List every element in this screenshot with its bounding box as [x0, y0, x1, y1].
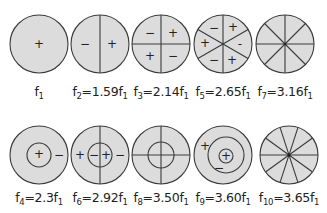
plus-sign: + [34, 37, 44, 51]
plus-sign: + [107, 37, 117, 51]
mode-f3-disc: − + + − [132, 15, 190, 73]
mode-f1-disc: + [10, 15, 68, 73]
minus-sign: − [209, 21, 219, 35]
minus-sign: − [115, 148, 125, 162]
minus-sign: − [168, 49, 178, 63]
plus-sign: + [200, 36, 210, 50]
plus-sign: + [101, 148, 111, 162]
minus-sign: − [54, 148, 64, 162]
mode-f8-disc [132, 126, 190, 184]
minus-sign: − [89, 148, 99, 162]
plus-sign: + [168, 26, 178, 40]
plus-sign: + [75, 148, 85, 162]
mode-label-f9: f9=3.60f1 [195, 190, 250, 207]
mode-f2-disc: − + [71, 15, 129, 73]
mode-label-f6: f6=2.92f1 [72, 190, 127, 207]
mode-label-f8: f8=3.50f1 [133, 190, 188, 207]
mode-label-f4: f4=2.3f1 [15, 190, 63, 207]
minus-sign: − [145, 26, 155, 40]
mode-f6-disc: + − + − [71, 126, 129, 184]
minus-sign: − [209, 53, 219, 67]
mode-label-f7: f7=3.16f1 [257, 84, 312, 101]
mode-f5-disc: − + + - − + [194, 15, 252, 73]
plus-sign: + [200, 139, 210, 153]
minus-sign: - [238, 37, 242, 51]
mode-f4-disc: + − [10, 126, 68, 184]
membrane-modes-diagram: .disc { fill: #dcdcdc; stroke: #3a3a3a; … [0, 0, 327, 213]
mode-label-f1: f1 [34, 84, 43, 101]
mode-label-f5: f5=2.65f1 [195, 84, 250, 101]
mode-label-f3: f3=2.14f1 [133, 84, 188, 101]
mode-label-f10: f10=3.65f1 [259, 190, 319, 207]
mode-f10-disc [260, 126, 318, 184]
plus-sign: + [227, 53, 237, 67]
plus-sign: + [34, 147, 44, 161]
plus-sign: + [145, 49, 155, 63]
mode-f9-disc: + + − [194, 126, 252, 184]
minus-sign: − [80, 37, 90, 51]
mode-f7-disc [256, 15, 314, 73]
plus-sign: + [228, 20, 238, 34]
minus-sign: − [214, 161, 224, 175]
mode-label-f2: f2=1.59f1 [72, 84, 127, 101]
